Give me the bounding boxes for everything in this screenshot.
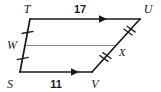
arrowhead-tu-icon	[99, 15, 107, 23]
measure-label-tu: 17	[74, 3, 86, 15]
vertex-label-u: U	[144, 2, 154, 16]
midpoint-label-x: X	[118, 46, 127, 58]
measure-label-sv: 11	[50, 78, 62, 90]
geometry-figure: T U V S W X 17 11	[0, 0, 161, 92]
geometry-canvas: T U V S W X 17 11	[0, 0, 161, 92]
vertex-label-v: V	[91, 77, 100, 91]
vertex-label-t: T	[24, 2, 32, 16]
midpoint-label-w: W	[7, 38, 18, 52]
arrowhead-sv-icon	[71, 68, 79, 76]
vertex-label-s: S	[7, 77, 13, 91]
